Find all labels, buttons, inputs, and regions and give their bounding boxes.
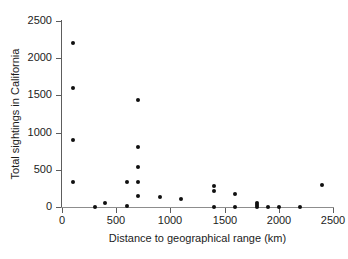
- data-point: [136, 98, 140, 102]
- data-point: [212, 205, 216, 209]
- plot-data-area: [62, 21, 333, 207]
- y-tick-label: 1500: [28, 89, 52, 100]
- x-tick-label: 1000: [158, 215, 182, 226]
- x-tick-mark: [225, 208, 226, 213]
- data-point: [125, 180, 129, 184]
- x-tick-mark: [333, 208, 334, 213]
- x-tick-mark: [116, 208, 117, 213]
- data-point: [125, 204, 129, 208]
- x-tick-label: 2500: [321, 215, 345, 226]
- data-point: [255, 205, 259, 209]
- data-point: [277, 205, 281, 209]
- y-axis-title: Total sightings in California: [9, 21, 23, 207]
- y-tick-label: 1000: [28, 127, 52, 138]
- x-tick-mark: [62, 208, 63, 213]
- data-point: [93, 205, 97, 209]
- data-point: [71, 138, 75, 142]
- x-axis-line: [61, 207, 334, 208]
- data-point: [136, 165, 140, 169]
- y-tick-mark: [56, 58, 61, 59]
- y-tick-label: 0: [46, 201, 52, 212]
- data-point: [71, 180, 75, 184]
- data-point: [233, 205, 237, 209]
- data-point: [158, 195, 162, 199]
- data-point: [136, 180, 140, 184]
- x-tick-label: 2000: [267, 215, 291, 226]
- y-tick-label: 500: [34, 164, 52, 175]
- y-tick-mark: [56, 207, 61, 208]
- x-axis-title: Distance to geographical range (km): [62, 232, 333, 244]
- data-point: [103, 201, 107, 205]
- x-tick-mark: [170, 208, 171, 213]
- data-point: [212, 184, 216, 188]
- y-tick-mark: [56, 170, 61, 171]
- data-point: [71, 41, 75, 45]
- x-tick-label: 500: [107, 215, 125, 226]
- x-tick-label: 0: [59, 215, 65, 226]
- data-point: [71, 86, 75, 90]
- y-tick-mark: [56, 95, 61, 96]
- data-point: [212, 189, 216, 193]
- y-tick-mark: [56, 21, 61, 22]
- data-point: [136, 194, 140, 198]
- y-tick-label: 2500: [28, 15, 52, 26]
- data-point: [136, 145, 140, 149]
- data-point: [266, 205, 270, 209]
- data-point: [320, 183, 324, 187]
- scatter-plot-figure: 05001000150020002500 0500100015002000250…: [0, 0, 348, 259]
- data-point: [233, 192, 237, 196]
- data-point: [179, 197, 183, 201]
- y-tick-label: 2000: [28, 52, 52, 63]
- data-point: [298, 205, 302, 209]
- x-tick-label: 1500: [213, 215, 237, 226]
- y-tick-mark: [56, 133, 61, 134]
